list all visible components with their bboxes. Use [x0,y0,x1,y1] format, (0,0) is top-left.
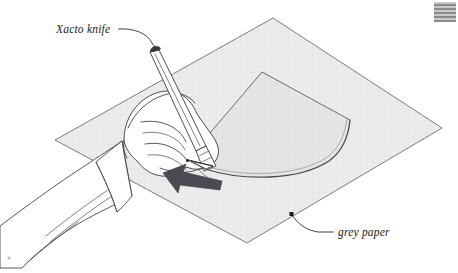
illustration-canvas: Xacto knife grey paper [0,0,458,273]
xacto-knife-leader [118,29,155,51]
shirt-sleeve [0,141,132,268]
label-grey-paper: grey paper [338,226,390,239]
striped-corner-marker [434,2,456,22]
label-xacto-knife: Xacto knife [55,23,110,36]
scan-speck [7,256,10,259]
grey-paper-leader-line [292,215,334,232]
figure-svg: Xacto knife grey paper [0,0,458,273]
grey-paper-anchor-dot [290,212,294,216]
knife-tip-contact [186,159,189,162]
grey-paper-leader [290,212,335,232]
xacto-leader-line [118,29,155,51]
